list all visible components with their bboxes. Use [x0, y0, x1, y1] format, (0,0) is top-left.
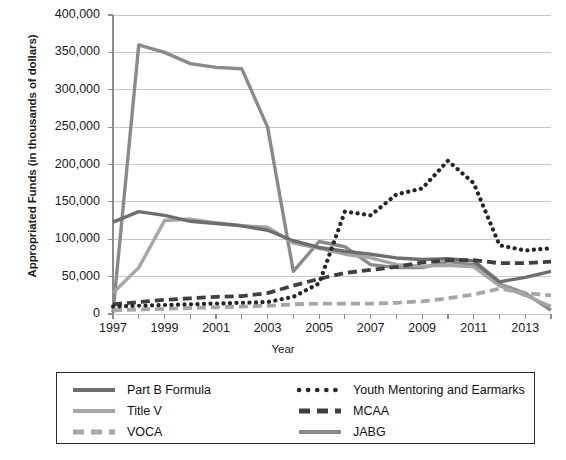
series-line-mcaa [113, 260, 551, 304]
legend-swatch-dashed-line-icon [71, 421, 117, 443]
chart-figure: Appropriated Funds (in thousands of doll… [0, 0, 566, 460]
legend-item-youth-mentoring-and-earmarks[interactable]: Youth Mentoring and Earmarks [297, 379, 525, 401]
legend-swatch-solid-line-icon [71, 379, 117, 401]
legend-label: JABG [353, 425, 386, 439]
legend-label: Part B Formula [127, 383, 211, 397]
legend-item-mcaa[interactable]: MCAA [297, 400, 389, 422]
legend-item-title-v[interactable]: Title V [71, 400, 162, 422]
legend-item-jabg[interactable]: JABG [297, 421, 386, 443]
series-line-youth-mentoring-and-earmarks [113, 161, 551, 307]
legend-label: MCAA [353, 404, 389, 418]
x-axis-title: Year [0, 343, 566, 355]
legend-item-voca[interactable]: VOCA [71, 421, 162, 443]
legend-label: Youth Mentoring and Earmarks [353, 383, 525, 397]
legend-swatch-solid-line-icon [71, 400, 117, 422]
legend-item-part-b-formula[interactable]: Part B Formula [71, 379, 211, 401]
legend-swatch-dotted-line-icon [297, 379, 343, 401]
chart-legend: Part B FormulaTitle VVOCAYouth Mentoring… [56, 372, 535, 444]
series-line-voca [113, 289, 551, 311]
legend-swatch-solid-line-icon [297, 421, 343, 443]
plot-area [0, 0, 566, 340]
legend-label: VOCA [127, 425, 162, 439]
legend-swatch-dashed-line-icon [297, 400, 343, 422]
legend-label: Title V [127, 404, 162, 418]
